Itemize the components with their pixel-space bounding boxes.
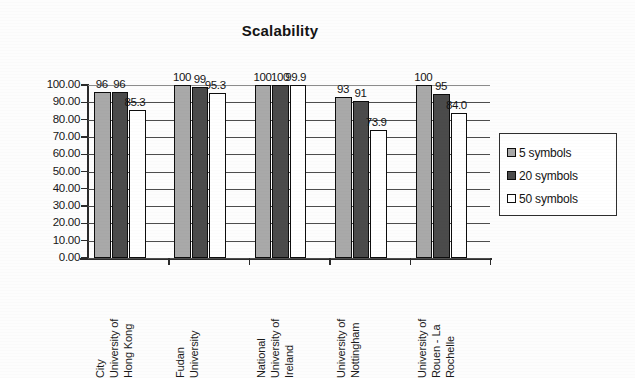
bar-value-label: 96 (113, 78, 125, 90)
y-axis-tick-label: 90.00 (24, 96, 80, 107)
bar-value-label: 99.9 (285, 71, 306, 83)
category-tick-mark (168, 258, 169, 265)
category-axis-label-line: University of (416, 266, 430, 378)
bar (451, 113, 468, 258)
category-axis-label-line: University (188, 266, 202, 378)
bar-value-label: 84.0 (446, 99, 467, 111)
bar-value-label: 91 (355, 87, 367, 99)
legend-item: 20 symbols (507, 164, 616, 187)
y-axis-tick-label: 30.00 (24, 200, 80, 211)
bar (416, 85, 433, 258)
bar (94, 92, 111, 258)
category-tick-mark (490, 258, 491, 265)
bar-value-label: 100 (173, 71, 191, 83)
y-axis-tick-label: 70.00 (24, 131, 80, 142)
legend-swatch-icon (507, 171, 516, 180)
legend-item-label: 5 symbols (519, 146, 571, 160)
bar (255, 85, 272, 258)
legend-item: 50 symbols (507, 187, 616, 210)
category-axis-label-line: Rochelle (444, 266, 458, 378)
y-axis-tick-label: 40.00 (24, 183, 80, 194)
category-tick-mark (249, 258, 250, 265)
category-axis-label-line: City (94, 266, 108, 378)
bar-value-label: 96 (96, 78, 108, 90)
bar-value-label: 95.3 (205, 79, 226, 91)
legend-item-label: 50 symbols (519, 192, 578, 206)
bar-value-label: 100 (414, 71, 432, 83)
bar (174, 85, 191, 258)
category-axis-label-line: Nottingham (349, 266, 363, 378)
category-axis-label-line: University of (108, 266, 122, 378)
legend-box: 5 symbols20 symbols50 symbols (499, 133, 617, 216)
category-axis-label-line: Rouen - La (430, 266, 444, 378)
bar-value-label: 73.9 (366, 116, 387, 128)
plot-area (88, 85, 490, 258)
legend-swatch-icon (507, 194, 516, 203)
bar (129, 110, 146, 258)
y-axis-tick-label: 80.00 (24, 114, 80, 125)
legend-swatch-icon (507, 148, 516, 157)
bar (209, 93, 226, 258)
category-axis-label-line: Ireland (283, 266, 297, 378)
category-axis-label-line: University of (269, 266, 283, 378)
bar-value-label: 85.3 (124, 96, 145, 108)
category-axis-label-line: University of (335, 266, 349, 378)
bar (290, 85, 307, 258)
y-axis-tick-label: 50.00 (24, 166, 80, 177)
gridline (88, 258, 490, 259)
category-axis-label-line: Hong Kong (122, 266, 136, 378)
bar (192, 87, 209, 258)
category-axis-label-line: National (255, 266, 269, 378)
chart-figure: Scalability 100.0090.0080.0070.0060.0050… (0, 0, 635, 378)
legend-item: 5 symbols (507, 141, 616, 164)
y-axis-tick-labels: 100.0090.0080.0070.0060.0050.0040.0030.0… (22, 0, 80, 378)
category-tick-mark (329, 258, 330, 265)
bar (335, 97, 352, 258)
category-axis-label-line: Fudan (174, 266, 188, 378)
y-axis-tick-label: 100.00 (24, 79, 80, 90)
y-axis-tick-label: 0.00 (24, 252, 80, 263)
bar (272, 85, 289, 258)
bar-value-label: 93 (337, 83, 349, 95)
y-axis-tick-label: 20.00 (24, 217, 80, 228)
bar (433, 94, 450, 258)
y-axis-tick-label: 10.00 (24, 235, 80, 246)
bar (370, 130, 387, 258)
category-tick-mark (410, 258, 411, 265)
bar (112, 92, 129, 258)
bar-value-label: 100 (253, 71, 271, 83)
legend-item-label: 20 symbols (519, 169, 578, 183)
chart-title: Scalability (0, 22, 560, 39)
y-axis-tick-label: 60.00 (24, 148, 80, 159)
bar-value-label: 95 (435, 80, 447, 92)
